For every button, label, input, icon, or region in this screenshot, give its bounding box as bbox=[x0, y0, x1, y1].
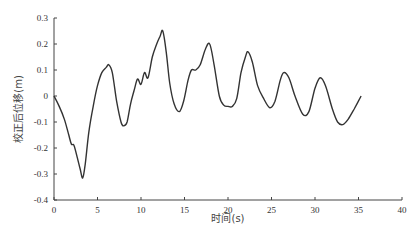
y-tick-label: 0.1 bbox=[37, 65, 48, 75]
y-tick-label: 0 bbox=[44, 91, 49, 101]
x-tick-label: 25 bbox=[267, 205, 277, 215]
x-axis-title: 时间(s) bbox=[211, 212, 244, 224]
x-tick-label: 35 bbox=[354, 205, 364, 215]
y-axis: 0.30.20.10-0.1-0.2-0.3-0.4 bbox=[34, 13, 57, 205]
y-axis-title: 校正后位移(m) bbox=[12, 75, 24, 143]
x-tick-label: 0 bbox=[52, 205, 57, 215]
y-tick-label: 0.2 bbox=[37, 39, 48, 49]
y-tick-label: -0.2 bbox=[34, 143, 48, 153]
x-tick-label: 5 bbox=[95, 205, 100, 215]
y-tick-label: -0.3 bbox=[34, 169, 49, 179]
x-tick-label: 15 bbox=[180, 205, 190, 215]
x-tick-label: 10 bbox=[137, 205, 147, 215]
y-tick-label: -0.1 bbox=[34, 117, 48, 127]
x-tick-label: 40 bbox=[398, 205, 408, 215]
displacement-line bbox=[54, 30, 361, 178]
y-tick-label: -0.4 bbox=[34, 195, 49, 205]
y-tick-label: 0.3 bbox=[37, 13, 49, 23]
line-chart: 0.30.20.10-0.1-0.2-0.3-0.4 0510152025303… bbox=[0, 0, 418, 240]
x-tick-label: 30 bbox=[311, 205, 321, 215]
